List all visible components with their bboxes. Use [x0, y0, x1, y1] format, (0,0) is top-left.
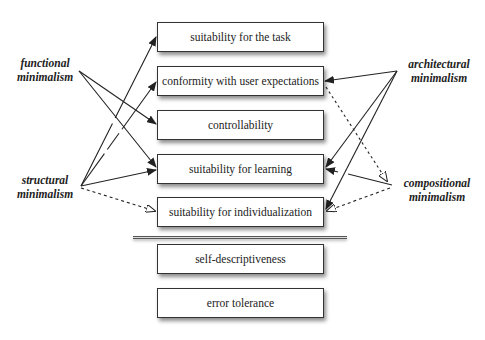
label-line: minimalism [394, 190, 480, 204]
line-compositional-learning [348, 174, 392, 185]
criterion-label: suitability for the task [190, 31, 291, 43]
arrow-structural-task [81, 37, 156, 186]
separator-line [133, 236, 347, 239]
label-line: compositional [394, 176, 480, 190]
arrow-structural-individualization [81, 188, 155, 211]
criterion-self-descriptiveness: self-descriptiveness [157, 244, 324, 274]
arrow-architectural-individualization [326, 71, 397, 209]
criterion-label: suitability for learning [189, 163, 292, 175]
label-architectural-minimalism: architectural minimalism [398, 57, 480, 85]
label-line: structural [10, 173, 80, 187]
criterion-controllability: controllability [157, 110, 324, 140]
label-line: minimalism [10, 187, 80, 201]
arrow-compositional-learning [326, 169, 338, 172]
criterion-label: self-descriptiveness [195, 253, 286, 265]
criterion-error-tolerance: error tolerance [157, 288, 324, 318]
arrow-architectural-learning [326, 71, 397, 167]
criterion-suitability-for-learning: suitability for learning [157, 154, 324, 184]
label-line: architectural [398, 57, 480, 71]
label-compositional-minimalism: compositional minimalism [394, 176, 480, 204]
arrow-architectural-conformity [325, 71, 397, 81]
label-line: functional [10, 56, 80, 70]
arrow-functional-learning [79, 71, 156, 167]
label-functional-minimalism: functional minimalism [10, 56, 80, 84]
criterion-label: controllability [208, 119, 273, 131]
criterion-suitability-for-individualization: suitability for individualization [157, 197, 324, 227]
criterion-suitability-for-task: suitability for the task [157, 22, 324, 52]
arrow-compositional-individualization [327, 188, 390, 211]
label-structural-minimalism: structural minimalism [10, 173, 80, 201]
criterion-label: suitability for individualization [169, 206, 312, 218]
criterion-label: conformity with user expectations [162, 75, 319, 87]
label-line: minimalism [398, 71, 480, 85]
label-line: minimalism [10, 70, 80, 84]
criterion-label: error tolerance [207, 297, 274, 309]
criterion-conformity-with-user-expectations: conformity with user expectations [157, 66, 324, 96]
arrow-structural-learning [81, 170, 156, 186]
arrow-conformity-compositional [326, 87, 387, 181]
